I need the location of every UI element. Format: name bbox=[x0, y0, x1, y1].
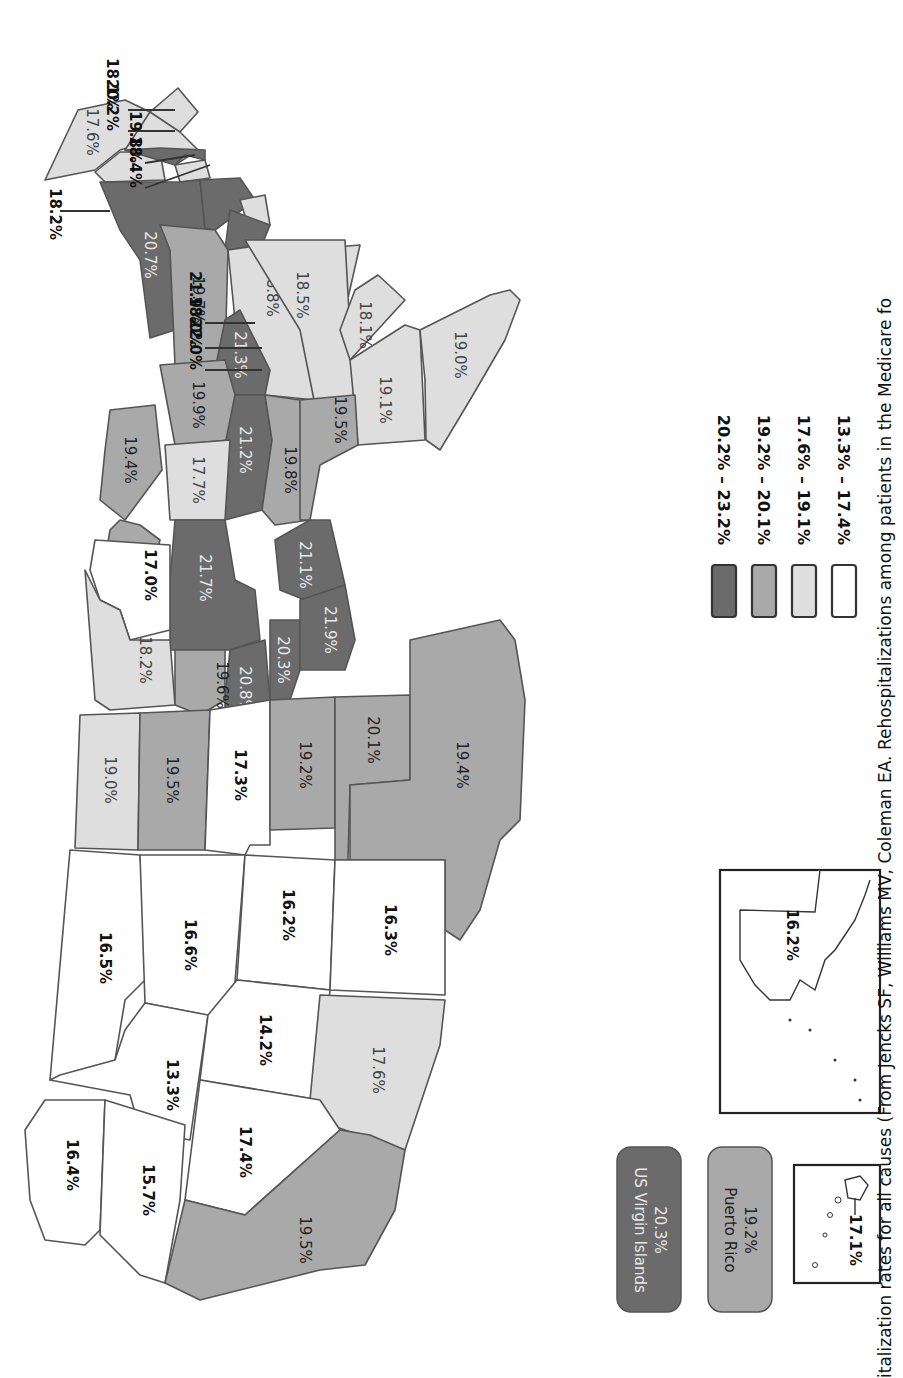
svg-text:19.4%: 19.4% bbox=[121, 436, 139, 484]
svg-text:16.5%: 16.5% bbox=[96, 932, 114, 984]
state-alabama[interactable]: 19.5% bbox=[300, 395, 358, 520]
alaska-inset[interactable]: 16.2% bbox=[720, 870, 880, 1113]
puerto-rico-box[interactable]: Puerto Rico 19.2% bbox=[708, 1147, 772, 1312]
svg-text:20.2% – 23.2%: 20.2% – 23.2% bbox=[714, 415, 733, 545]
state-arkansas[interactable]: 20.3% bbox=[270, 620, 300, 700]
svg-text:19.0%: 19.0% bbox=[451, 331, 469, 379]
svg-text:17.6%: 17.6% bbox=[83, 108, 101, 156]
svg-text:16.3%: 16.3% bbox=[381, 904, 399, 956]
state-new-mexico[interactable]: 16.3% bbox=[330, 860, 445, 995]
state-nebraska[interactable]: 17.3% bbox=[205, 700, 270, 855]
svg-text:21.3%: 21.3% bbox=[231, 331, 249, 379]
svg-text:Puerto Rico: Puerto Rico bbox=[721, 1187, 739, 1273]
state-north-dakota[interactable]: 19.0% bbox=[75, 713, 140, 850]
state-louisiana[interactable]: 21.9% bbox=[300, 585, 355, 670]
svg-text:18.4%: 18.4% bbox=[126, 136, 144, 188]
state-south-dakota[interactable]: 19.5% bbox=[138, 710, 210, 850]
svg-text:19.8%: 19.8% bbox=[281, 446, 299, 494]
svg-text:20.7%: 20.7% bbox=[141, 231, 159, 279]
svg-text:17.0%: 17.0% bbox=[141, 549, 159, 601]
svg-text:18.1%: 18.1% bbox=[356, 301, 374, 349]
svg-text:16.2%: 16.2% bbox=[279, 889, 297, 941]
callout-vermont: 18.2% bbox=[46, 188, 110, 240]
state-illinois[interactable]: 21.7% bbox=[170, 520, 260, 650]
svg-text:20.3%: 20.3% bbox=[274, 636, 292, 684]
svg-text:22.0%: 22.0% bbox=[186, 318, 204, 370]
legend-item-mid: 19.2% – 20.1% bbox=[752, 415, 776, 617]
state-florida[interactable]: 19.0% bbox=[420, 290, 520, 450]
svg-text:20.2%: 20.2% bbox=[103, 79, 121, 131]
usvi-box[interactable]: US Virgin Islands 20.3% bbox=[617, 1147, 681, 1312]
svg-text:US Virgin Islands: US Virgin Islands bbox=[631, 1167, 649, 1293]
legend-item-dark: 20.2% – 23.2% bbox=[712, 415, 736, 617]
svg-text:15.7%: 15.7% bbox=[139, 1164, 157, 1216]
state-colorado[interactable]: 16.2% bbox=[237, 855, 335, 990]
legend-item-white: 13.3% – 17.4% bbox=[832, 415, 856, 617]
svg-text:19.5%: 19.5% bbox=[163, 756, 181, 804]
us-choropleth-map: 17.6% 20.7% 19.7% 18.8% 21.3% 18.5% bbox=[0, 0, 903, 1378]
svg-text:17.6%: 17.6% bbox=[369, 1046, 387, 1094]
svg-text:20.1%: 20.1% bbox=[364, 716, 382, 764]
svg-text:17.4%: 17.4% bbox=[236, 1126, 254, 1178]
svg-text:17.6% – 19.1%: 17.6% – 19.1% bbox=[794, 415, 813, 545]
svg-text:19.6%: 19.6% bbox=[213, 661, 231, 709]
svg-text:21.1%: 21.1% bbox=[296, 541, 314, 589]
legend-item-light: 17.6% – 19.1% bbox=[792, 415, 816, 617]
legend: 20.2% – 23.2% 19.2% – 20.1% 17.6% – 19.1… bbox=[712, 415, 856, 617]
svg-text:19.2%: 19.2% bbox=[296, 741, 314, 789]
svg-text:14.2%: 14.2% bbox=[256, 1014, 274, 1066]
svg-text:17.3%: 17.3% bbox=[231, 749, 249, 801]
state-ohio[interactable]: 19.9% bbox=[160, 360, 238, 445]
svg-text:19.9%: 19.9% bbox=[189, 381, 207, 429]
svg-text:20.3%: 20.3% bbox=[651, 1206, 669, 1254]
svg-text:21.9%: 21.9% bbox=[321, 606, 339, 654]
svg-text:16.4%: 16.4% bbox=[63, 1139, 81, 1191]
svg-text:19.1%: 19.1% bbox=[376, 376, 394, 424]
state-indiana[interactable]: 17.7% bbox=[165, 440, 230, 520]
svg-text:18.5%: 18.5% bbox=[293, 271, 311, 319]
figure-caption: italization rates for all causes (From J… bbox=[875, 298, 895, 1378]
hawaii-value: 17.1% bbox=[846, 1214, 864, 1266]
svg-text:21.7%: 21.7% bbox=[196, 554, 214, 602]
svg-text:19.5%: 19.5% bbox=[296, 1216, 314, 1264]
hawaii-inset[interactable]: 17.1% bbox=[794, 1165, 880, 1283]
svg-text:19.2%: 19.2% bbox=[741, 1206, 759, 1254]
svg-text:13.3% – 17.4%: 13.3% – 17.4% bbox=[834, 415, 853, 545]
svg-text:18.2%: 18.2% bbox=[46, 188, 64, 240]
state-iowa[interactable]: 19.6% bbox=[175, 650, 231, 715]
svg-text:18.2%: 18.2% bbox=[136, 636, 154, 684]
svg-text:13.3%: 13.3% bbox=[163, 1059, 181, 1111]
svg-text:21.2%: 21.2% bbox=[236, 426, 254, 474]
svg-text:19.4%: 19.4% bbox=[453, 741, 471, 789]
svg-text:19.0%: 19.0% bbox=[101, 756, 119, 804]
alaska-value: 16.2% bbox=[783, 909, 801, 961]
state-michigan[interactable]: 19.4% bbox=[100, 405, 162, 560]
state-washington[interactable]: 16.4% bbox=[25, 1100, 105, 1245]
svg-text:19.2% – 20.1%: 19.2% – 20.1% bbox=[754, 415, 773, 545]
svg-text:17.7%: 17.7% bbox=[189, 456, 207, 504]
svg-text:19.5%: 19.5% bbox=[331, 396, 349, 444]
svg-text:16.6%: 16.6% bbox=[181, 919, 199, 971]
state-kansas[interactable]: 19.2% bbox=[270, 697, 335, 830]
